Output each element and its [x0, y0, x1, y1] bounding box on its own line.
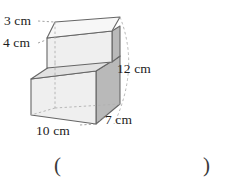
step-solid-figure [0, 0, 232, 182]
dimension-label-base-width: 10 cm [36, 124, 70, 138]
dimension-label-total-height: 12 cm [117, 62, 151, 76]
answer-paren-open: ( [54, 155, 61, 176]
dimension-label-top-width: 3 cm [4, 14, 31, 28]
leader-line-3cm [38, 21, 54, 22]
dimension-label-upper-height: 4 cm [3, 36, 30, 50]
leader-line-10cm [80, 124, 96, 125]
upper-right-face [112, 26, 120, 62]
figure-page: 3 cm 4 cm 12 cm 10 cm 7 cm ( ) [0, 0, 232, 182]
answer-paren-close: ) [203, 155, 210, 176]
leader-line-4cm [38, 40, 46, 43]
dimension-label-depth: 7 cm [105, 113, 132, 127]
base-front-face [31, 71, 96, 124]
